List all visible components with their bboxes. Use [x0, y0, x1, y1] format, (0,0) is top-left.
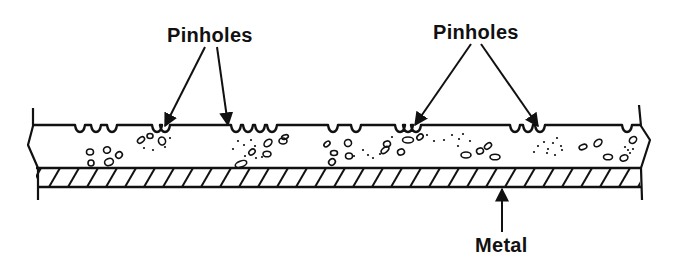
inclusion-speck: [232, 148, 234, 150]
void-bubble: [619, 154, 629, 162]
void-bubble: [263, 151, 271, 157]
coating-surface-with-pinholes: [33, 125, 641, 132]
inclusion-speck: [547, 148, 549, 150]
inclusion-speck: [443, 139, 445, 141]
inclusion-speck: [552, 142, 554, 144]
inclusion-speck: [561, 149, 563, 151]
void-bubble: [593, 138, 604, 148]
void-bubble: [490, 154, 500, 160]
inclusion-speck: [250, 139, 252, 141]
inclusion-speck: [458, 138, 460, 140]
inclusion-speck: [543, 141, 545, 143]
inclusion-speck: [556, 137, 558, 139]
void-bubble: [281, 134, 289, 140]
left-break-line: [28, 108, 38, 200]
pinhole-arrow: [415, 44, 471, 125]
void-bubble: [344, 139, 353, 148]
void-bubble: [136, 136, 145, 145]
pinhole-arrow: [481, 44, 538, 126]
void-bubble: [331, 151, 338, 156]
inclusion-speck: [379, 153, 381, 155]
void-bubble: [416, 133, 425, 141]
coating-cross-section-drawing: [0, 0, 683, 271]
void-bubble: [483, 142, 492, 151]
inclusion-speck: [367, 154, 369, 156]
void-bubble: [628, 135, 638, 145]
void-bubble: [147, 134, 153, 139]
inclusion-speck: [533, 151, 535, 153]
inclusion-speck: [433, 140, 435, 142]
inclusion-speck: [362, 149, 364, 151]
void-bubble: [403, 137, 414, 143]
inclusion-speck: [255, 157, 257, 159]
void-bubble: [604, 154, 613, 160]
inclusion-speck: [627, 149, 629, 151]
inclusion-speck: [152, 149, 154, 151]
void-bubble: [380, 145, 390, 155]
inclusion-speck: [244, 155, 246, 157]
void-bubble: [114, 150, 123, 159]
void-bubble: [397, 148, 406, 156]
inclusion-speck: [143, 147, 145, 149]
void-bubble: [88, 160, 94, 166]
metal-label: Metal: [475, 235, 528, 255]
inclusion-speck: [426, 134, 428, 136]
inclusion-speck: [469, 140, 471, 142]
inclusion-speck: [372, 157, 374, 159]
inclusion-speck: [554, 154, 556, 156]
void-bubble: [476, 147, 485, 155]
inclusion-speck: [632, 148, 634, 150]
void-bubble: [157, 136, 166, 146]
pinholes-label-right: Pinholes: [433, 22, 519, 42]
void-bubble: [263, 138, 274, 148]
pinhole-diagram: Pinholes Pinholes Metal: [0, 0, 683, 271]
inclusion-speck: [537, 145, 539, 147]
inclusion-speck: [237, 140, 239, 142]
void-bubble: [87, 149, 94, 155]
inclusion-speck: [457, 145, 459, 147]
metal-hatching: [30, 168, 668, 187]
inclusion-speck: [353, 155, 355, 157]
inclusion-speck: [243, 144, 245, 146]
inclusion-speck: [546, 152, 548, 154]
pinhole-arrow: [165, 47, 205, 126]
void-bubble: [248, 148, 257, 156]
void-bubble: [346, 153, 353, 159]
inclusion-speck: [164, 146, 166, 148]
void-bubble: [104, 157, 115, 167]
inclusion-speck: [261, 156, 263, 158]
void-bubble: [461, 152, 471, 158]
callout-arrows: [165, 44, 538, 232]
inclusion-speck: [391, 136, 393, 138]
inclusion-speck: [629, 152, 631, 154]
metal-substrate: [30, 168, 668, 187]
inclusion-speck: [462, 133, 464, 135]
right-break-line: [639, 105, 650, 200]
pinholes-label-left: Pinholes: [167, 25, 253, 45]
inclusion-speck: [560, 145, 562, 147]
void-bubble: [578, 143, 587, 150]
pinhole-arrow: [217, 47, 228, 125]
inclusion-speck: [624, 146, 626, 148]
inclusion-speck: [451, 134, 453, 136]
inclusion-speck: [254, 145, 256, 147]
void-bubble: [103, 146, 112, 154]
inclusion-speck: [169, 137, 171, 139]
void-bubble: [323, 140, 331, 148]
void-bubble: [327, 157, 336, 166]
